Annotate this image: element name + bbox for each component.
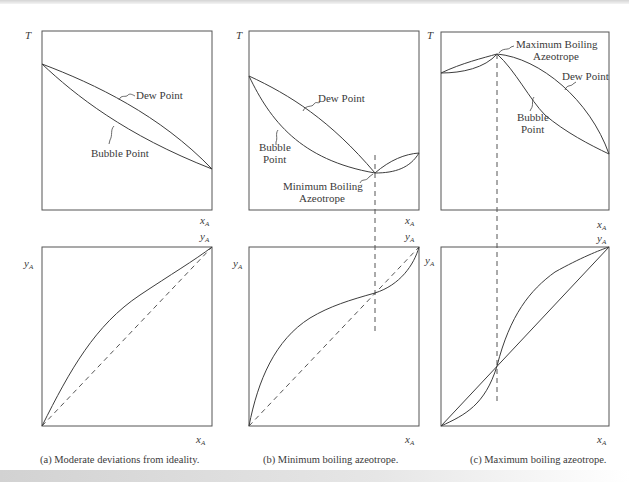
panel-c-azeotrope-label-line1: Maximum Boiling xyxy=(516,38,598,50)
phase-diagram-figure: T Dew Point Bubble Point xA yA yA xA (a)… xyxy=(0,0,629,482)
panel-a-dew-leader xyxy=(119,94,135,100)
panel-a-diagonal xyxy=(42,247,212,426)
panel-b-xy-diagram: yA xA xyxy=(232,247,419,447)
panel-a-xy-x-label: xA xyxy=(195,433,206,447)
panel-a-xy-diagram: yA xA xyxy=(23,247,212,447)
panel-c-xy-x-label: xA xyxy=(596,433,607,447)
panel-a-dew-label: Dew Point xyxy=(136,89,183,101)
panel-a-t-axis-label: T xyxy=(25,29,32,41)
panel-a-caption: (a) Moderate deviations from ideality. xyxy=(40,454,199,466)
panel-b-txy-x-label: xA xyxy=(404,214,415,228)
panel-a-txy-x-label: xA xyxy=(199,214,210,228)
panel-b-bubble-label-line2: Point xyxy=(263,153,286,165)
panel-a-bubble-leader xyxy=(109,126,114,144)
panel-c-bubble-label-line1: Bubble xyxy=(517,111,549,123)
panel-c-txy-x-label: xA xyxy=(596,218,607,232)
panel-c-bubble-curve xyxy=(497,54,609,154)
panel-b-dew-label: Dew Point xyxy=(318,92,365,104)
panel-a-bubble-label: Bubble Point xyxy=(91,147,149,159)
panel-c: T Maximum Boiling Azeotrope Dew Point Bu… xyxy=(424,29,609,466)
panel-c-caption: (c) Maximum boiling azeotrope. xyxy=(470,454,606,466)
panel-b-xy-x-label: xA xyxy=(404,433,415,447)
panel-a-txy-diagram: T Dew Point Bubble Point xA yA xyxy=(25,29,212,244)
panel-b-t-axis-label: T xyxy=(236,29,243,41)
panel-b-azeotrope-label-line1: Minimum Boiling xyxy=(283,180,363,192)
panel-b-diagonal xyxy=(249,247,419,426)
panel-c-azeotrope-label-line2: Azeotrope xyxy=(533,50,579,62)
panel-a-xy-y-axis-label: yA xyxy=(23,257,34,271)
panel-b-txy-diagram: T Dew Point Bubble Point Minimum Boiling… xyxy=(236,29,419,335)
panel-c-txy-diagram: T Maximum Boiling Azeotrope Dew Point Bu… xyxy=(427,29,609,402)
panel-c-xy-diagram: yA xA xyxy=(424,247,609,447)
panel-b-xy-y-axis-label: yA xyxy=(232,257,243,271)
panel-c-diagonal xyxy=(441,247,609,426)
panel-b-bubble-label-line1: Bubble xyxy=(259,141,291,153)
panel-b-caption: (b) Minimum boiling azeotrope. xyxy=(263,454,398,466)
panel-b: T Dew Point Bubble Point Minimum Boiling… xyxy=(232,29,419,466)
panel-a-txy-frame xyxy=(42,31,212,210)
panel-c-azeotrope-leader xyxy=(499,46,514,53)
panel-c-bubble-label-line2: Point xyxy=(521,123,544,135)
panel-c-dew-curve xyxy=(497,54,609,154)
panel-b-azeotrope-label-line2: Azeotrope xyxy=(299,192,345,204)
panel-c-dew-label: Dew Point xyxy=(562,70,609,82)
panel-c-t-axis-label: T xyxy=(427,29,434,41)
panel-a: T Dew Point Bubble Point xA yA yA xA (a)… xyxy=(23,29,212,466)
panel-b-bubble-curve-right xyxy=(375,153,419,173)
bottom-edge-band xyxy=(0,470,629,482)
panel-c-xy-y-axis-label: yA xyxy=(424,254,435,268)
